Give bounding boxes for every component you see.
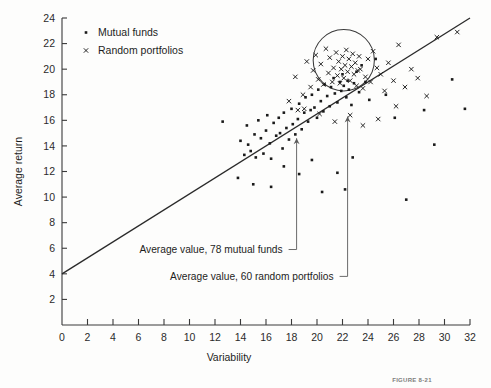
marker-dot (262, 152, 265, 155)
marker-x (396, 43, 400, 47)
marker-x (382, 89, 386, 93)
figure-container: 2468101214161820222402468101214161820222… (0, 0, 491, 388)
marker-x (326, 71, 330, 75)
marker-x (347, 57, 351, 61)
marker-x (336, 59, 340, 63)
marker-dot (297, 118, 300, 121)
marker-dot (291, 123, 294, 126)
marker-x (293, 75, 297, 79)
marker-x (344, 48, 348, 52)
marker-dot (405, 198, 408, 201)
marker-dot (345, 96, 348, 99)
marker-x (314, 53, 318, 57)
marker-x (403, 85, 407, 89)
marker-dot (246, 124, 249, 127)
x-tick-label: 22 (337, 331, 349, 343)
marker-x (345, 70, 349, 74)
y-tick-label: 12 (43, 165, 55, 177)
marker-dot (423, 109, 426, 112)
marker-x (308, 85, 312, 89)
marker-dot (311, 93, 314, 96)
x-tick-label: 14 (235, 331, 247, 343)
marker-dot (249, 150, 252, 153)
marker-dot (320, 100, 323, 103)
legend-label-1: Random portfolios (98, 44, 183, 56)
y-tick-label: 24 (43, 12, 55, 24)
marker-x (357, 54, 361, 58)
x-tick-label: 0 (59, 331, 65, 343)
marker-dot (351, 156, 354, 159)
y-tick-label: 2 (49, 293, 55, 305)
y-tick-label: 14 (43, 140, 55, 152)
marker-dot (283, 165, 286, 168)
marker-x (343, 63, 347, 67)
marker-x (324, 47, 328, 51)
marker-dot (283, 111, 286, 114)
marker-dot (313, 106, 316, 109)
marker-dot (275, 134, 278, 137)
marker-dot (348, 88, 351, 91)
x-tick-label: 8 (161, 331, 167, 343)
annotation-text-0: Average value, 78 mutual funds (139, 244, 282, 255)
marker-dot (334, 92, 337, 95)
marker-dot (298, 102, 301, 105)
marker-x (333, 119, 337, 123)
marker-x (455, 30, 459, 34)
x-tick-label: 20 (311, 331, 323, 343)
y-tick-label: 10 (43, 191, 55, 203)
marker-dot (322, 110, 325, 113)
marker-dot (265, 129, 268, 132)
marker-x (352, 72, 356, 76)
marker-dot (290, 108, 293, 111)
marker-dot (285, 127, 288, 130)
marker-dot (277, 116, 280, 119)
marker-dot (364, 81, 367, 84)
marker-dot (237, 177, 240, 180)
x-tick-label: 24 (362, 331, 374, 343)
marker-dot (298, 173, 301, 176)
marker-x (339, 67, 343, 71)
y-axis-title: Average return (12, 137, 24, 206)
regression-line (62, 18, 470, 274)
y-tick-label: 20 (43, 63, 55, 75)
marker-x (361, 123, 365, 127)
marker-dot (328, 105, 331, 108)
x-tick-label: 30 (439, 331, 451, 343)
x-tick-label: 6 (136, 331, 142, 343)
marker-x (287, 99, 291, 103)
marker-x (348, 113, 352, 117)
marker-dot (281, 147, 284, 150)
marker-dot (350, 104, 353, 107)
x-tick-label: 28 (413, 331, 425, 343)
marker-dot (464, 108, 467, 111)
annotation-leader-0 (289, 138, 297, 249)
marker-x (84, 48, 88, 52)
y-tick-label: 4 (49, 268, 55, 280)
x-tick-label: 32 (464, 331, 476, 343)
legend-label-0: Mutual funds (98, 26, 158, 38)
marker-x (334, 50, 338, 54)
marker-dot (374, 58, 377, 61)
marker-x (424, 94, 428, 98)
marker-dot (239, 140, 242, 143)
x-axis-title: Variability (207, 351, 252, 363)
marker-dot (270, 157, 273, 160)
marker-dot (260, 137, 263, 140)
marker-x (375, 66, 379, 70)
marker-dot (279, 132, 282, 135)
marker-dot (294, 133, 297, 136)
marker-x (391, 78, 395, 82)
marker-x (319, 62, 323, 66)
x-tick-label: 26 (388, 331, 400, 343)
marker-x (366, 57, 370, 61)
marker-x (328, 55, 332, 59)
marker-dot (243, 154, 246, 157)
y-tick-label: 16 (43, 114, 55, 126)
marker-dot (288, 138, 291, 141)
marker-x (340, 54, 344, 58)
marker-dot (309, 109, 312, 112)
x-tick-label: 4 (110, 331, 116, 343)
marker-dot (326, 95, 329, 98)
marker-dot (368, 99, 371, 102)
marker-dot (252, 183, 255, 186)
